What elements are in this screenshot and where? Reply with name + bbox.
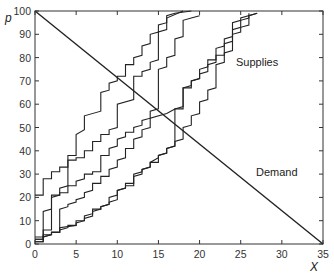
x-tick-label: 35	[317, 248, 329, 260]
x-tick-label: 25	[235, 248, 247, 260]
ticks-layer: 051015202530350102030405060708090100	[13, 5, 329, 260]
x-tick-label: 30	[276, 248, 288, 260]
y-tick-label: 20	[19, 191, 31, 203]
x-tick-label: 10	[111, 248, 123, 260]
y-tick-label: 70	[19, 75, 31, 87]
supply-curve-3	[35, 11, 183, 239]
y-tick-label: 0	[25, 238, 31, 250]
x-tick-label: 20	[194, 248, 206, 260]
supplies-annotation: Supplies	[236, 56, 279, 68]
supply-curve-1	[35, 11, 191, 195]
x-axis-label: X	[309, 260, 319, 274]
y-tick-label: 10	[19, 215, 31, 227]
y-tick-label: 30	[19, 168, 31, 180]
demand-annotation: Demand	[256, 166, 298, 178]
supply-demand-chart: 051015202530350102030405060708090100 p X…	[0, 0, 334, 278]
x-tick-label: 15	[153, 248, 165, 260]
y-axis-label: p	[4, 11, 12, 25]
series-layer	[35, 11, 323, 244]
y-tick-label: 40	[19, 145, 31, 157]
y-tick-label: 100	[13, 5, 31, 17]
x-tick-label: 0	[32, 248, 38, 260]
y-tick-label: 80	[19, 52, 31, 64]
demand-line	[35, 11, 323, 244]
y-tick-label: 90	[19, 28, 31, 40]
x-tick-label: 5	[73, 248, 79, 260]
y-tick-label: 50	[19, 122, 31, 134]
y-tick-label: 60	[19, 98, 31, 110]
